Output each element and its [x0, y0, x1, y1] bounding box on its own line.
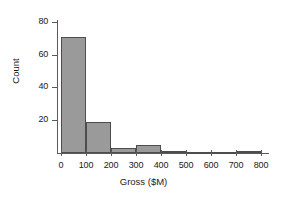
y-tick [52, 55, 58, 56]
histogram-bar [161, 151, 186, 153]
y-axis-label-wrapper: Count [5, 41, 23, 101]
y-tick [52, 120, 58, 121]
histogram-bar [236, 151, 261, 153]
x-tick [211, 150, 212, 156]
histogram-bar [61, 37, 86, 153]
y-tick-label: 80 [18, 16, 48, 26]
y-tick [52, 22, 58, 23]
y-tick [52, 87, 58, 88]
histogram-bar [111, 148, 136, 153]
histogram-bar [186, 152, 211, 154]
x-axis-label: Gross ($M) [0, 176, 287, 187]
x-tick [261, 150, 262, 156]
y-tick-label: 20 [18, 114, 48, 124]
histogram-figure: 0100200300400500600700800 20406080 Gross… [0, 0, 287, 200]
x-tick [136, 150, 137, 156]
y-axis-label: Count [10, 58, 21, 83]
x-tick [86, 150, 87, 156]
x-tick [61, 150, 62, 156]
histogram-bar [211, 152, 236, 154]
x-tick [236, 150, 237, 156]
x-tick-label: 800 [246, 160, 276, 170]
x-tick [186, 150, 187, 156]
x-tick [161, 150, 162, 156]
histogram-bar [136, 145, 161, 153]
histogram-bar [86, 122, 111, 153]
x-tick [111, 150, 112, 156]
